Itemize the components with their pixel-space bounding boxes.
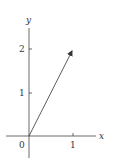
vector-arrow: [29, 51, 72, 136]
x-axis-label: x: [99, 131, 104, 141]
y-tick-label-1: 1: [19, 88, 25, 98]
y-axis-label: y: [25, 15, 32, 25]
vector-diagram: y x 0 1 1 2: [0, 0, 113, 165]
y-tick-label-2: 2: [19, 44, 25, 54]
origin-label: 0: [19, 140, 25, 150]
x-tick-label-1: 1: [70, 140, 76, 150]
